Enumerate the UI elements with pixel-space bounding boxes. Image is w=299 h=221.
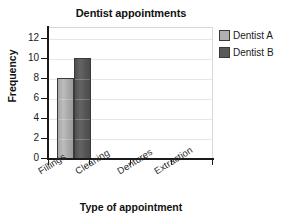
y-tick-label-0: 0 xyxy=(22,153,39,163)
plot-area xyxy=(48,27,213,159)
bar-highlight-line xyxy=(75,119,90,120)
legend-item-dentist-a[interactable]: Dentist A xyxy=(219,28,297,43)
gridline-10 xyxy=(48,59,212,60)
legend-label-dentist-b: Dentist B xyxy=(233,47,274,58)
y-tick-label-6: 6 xyxy=(22,93,39,103)
bar-highlight-line xyxy=(75,139,90,140)
y-tick-10 xyxy=(41,58,47,59)
y-tick-label-10-wrap: 10 xyxy=(22,53,39,63)
bar-highlight-line xyxy=(75,79,90,80)
bar-highlight-line xyxy=(75,99,90,100)
chart-legend: Dentist A Dentist B xyxy=(219,28,297,62)
y-tick-label-4-wrap: 4 xyxy=(22,113,39,123)
bar-fillings-dentist-b[interactable] xyxy=(74,58,91,159)
legend-swatch-dentist-b xyxy=(219,47,230,58)
legend-label-dentist-a: Dentist A xyxy=(233,30,273,41)
y-tick-6 xyxy=(41,98,47,99)
gridline-12 xyxy=(48,39,212,40)
y-tick-2 xyxy=(41,138,47,139)
bar-fillings-dentist-a[interactable] xyxy=(57,78,74,159)
legend-swatch-dentist-a xyxy=(219,30,230,41)
y-tick-label-6-wrap: 6 xyxy=(22,93,39,103)
y-tick-label-8: 8 xyxy=(22,73,39,83)
y-tick-label-2: 2 xyxy=(22,133,39,143)
y-axis-title: Frequency xyxy=(6,31,18,121)
y-tick-4 xyxy=(41,118,47,119)
x-axis-title: Type of appointment xyxy=(48,201,214,213)
bar-highlight-line xyxy=(58,99,73,100)
bar-highlight-line xyxy=(58,139,73,140)
bar-chart-figure: Dentist appointments 12 10 xyxy=(0,0,299,221)
legend-item-dentist-b[interactable]: Dentist B xyxy=(219,45,297,60)
y-tick-0 xyxy=(41,158,47,159)
chart-title: Dentist appointments xyxy=(48,7,214,19)
x-tick-4 xyxy=(212,160,213,165)
y-tick-label-4: 4 xyxy=(22,113,39,123)
y-tick-label-0-wrap: 0 xyxy=(22,153,39,163)
y-tick-label-12: 12 xyxy=(22,33,39,43)
y-tick-12 xyxy=(41,38,47,39)
y-tick-label-12-wrap: 12 xyxy=(22,33,39,43)
y-axis-line xyxy=(47,26,49,160)
y-tick-8 xyxy=(41,78,47,79)
y-tick-label-8-wrap: 8 xyxy=(22,73,39,83)
y-tick-label-2-wrap: 2 xyxy=(22,133,39,143)
y-tick-label-10: 10 xyxy=(22,53,39,63)
bar-highlight-line xyxy=(58,119,73,120)
